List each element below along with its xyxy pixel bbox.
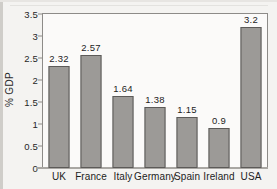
bar-group[interactable]: 3.2 [235,14,267,168]
bar-value-label: 0.9 [212,115,226,126]
bar-value-label: 3.2 [244,14,258,25]
bar[interactable] [113,96,134,168]
x-category-label: Germany [134,171,176,182]
bar[interactable] [81,55,102,168]
x-category-label: Ireland [203,171,234,182]
bar-value-label: 1.38 [145,94,164,105]
y-tick-label: 1 [4,119,38,130]
x-axis-category-labels: UKFranceItalyGermanySpainIrelandUSA [43,171,267,188]
bar-group[interactable]: 1.15 [171,14,203,168]
bar-group[interactable]: 2.32 [43,14,75,168]
bar-group[interactable]: 1.38 [139,14,171,168]
y-tick-label: 3 [4,31,38,42]
x-category-label: France [75,171,107,182]
y-axis-tick-labels: 00.511.522.533.5 [0,0,38,189]
bar-value-label: 1.64 [113,83,132,94]
bar-chart: % GDP 00.511.522.533.5 2.322.571.641.381… [0,0,277,189]
bar-group[interactable]: 0.9 [203,14,235,168]
x-category-label: USA [241,171,262,182]
y-tick-label: 0 [4,163,38,174]
y-tick-label: 1.5 [4,97,38,108]
bar-value-label: 2.32 [49,53,68,64]
bar-value-label: 1.15 [177,104,196,115]
y-tick-label: 0.5 [4,141,38,152]
bar-group[interactable]: 1.64 [107,14,139,168]
bar-series: 2.322.571.641.381.150.93.2 [43,14,267,168]
bar[interactable] [49,66,70,168]
bar-group[interactable]: 2.57 [75,14,107,168]
y-tick-label: 2.5 [4,53,38,64]
bar-value-label: 2.57 [81,42,100,53]
bar[interactable] [145,107,166,168]
y-tick-label: 2 [4,75,38,86]
x-category-label: Italy [114,171,133,182]
bar[interactable] [177,117,198,168]
bar[interactable] [209,128,230,168]
x-category-label: Spain [174,171,200,182]
bar[interactable] [241,27,262,168]
y-tick-label: 3.5 [4,9,38,20]
x-category-label: UK [52,171,66,182]
